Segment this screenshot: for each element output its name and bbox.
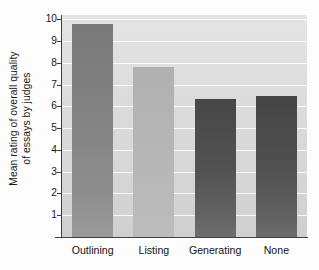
y-tick-label: 6: [38, 101, 57, 111]
plot-area: [62, 15, 307, 237]
x-tick-label: Generating: [189, 244, 241, 256]
y-axis-title-text: Mean rating of overall quality of essays…: [7, 52, 32, 186]
y-tick-label: 5: [38, 123, 57, 133]
bar-listing: [133, 67, 174, 237]
gridline: [62, 19, 307, 20]
y-axis-title-line-2: of essays by judges: [20, 52, 33, 186]
y-tick-label: 9: [38, 36, 57, 46]
y-axis-title-line-1: Mean rating of overall quality: [7, 52, 20, 186]
y-tick-label: 8: [38, 58, 57, 68]
y-axis-tick-labels: 12345678910: [38, 0, 57, 238]
x-tick-label: Outlining: [72, 244, 114, 256]
y-axis-title: Mean rating of overall quality of essays…: [0, 0, 40, 238]
y-tick-label: 10: [38, 14, 57, 24]
bar-chart-figure: Mean rating of overall quality of essays…: [0, 0, 319, 270]
bar-none: [256, 96, 297, 237]
y-tick-label: 3: [38, 167, 57, 177]
y-tick-label: 7: [38, 80, 57, 90]
bar-outlining: [72, 24, 113, 237]
x-axis-line: [55, 237, 308, 238]
x-axis-tick-labels: OutliningListingGeneratingNone: [62, 244, 307, 264]
x-tick-label: Listing: [139, 244, 170, 256]
bar-generating: [195, 99, 236, 237]
y-tick-label: 4: [38, 145, 57, 155]
x-tick-label: None: [264, 244, 289, 256]
y-tick-label: 1: [38, 210, 57, 220]
y-tick-label: 2: [38, 188, 57, 198]
